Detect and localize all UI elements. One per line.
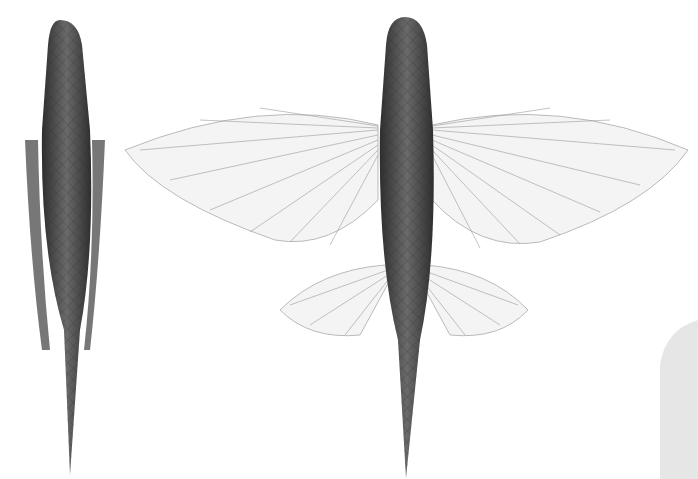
- corner-panel: [660, 320, 698, 479]
- spread-fish: [125, 17, 688, 478]
- illustration: [0, 0, 698, 479]
- folded-fish: [25, 20, 105, 475]
